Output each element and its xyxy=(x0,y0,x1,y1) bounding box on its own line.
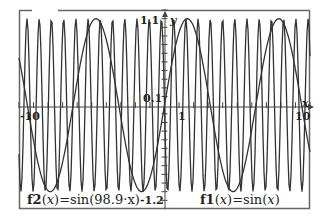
f2-inner: 98.9·x xyxy=(94,192,134,207)
f2-arg: x xyxy=(47,192,54,207)
f1-label[interactable]: f1(x)=sin(x) xyxy=(200,193,280,206)
x-scale-label: 1 xyxy=(178,111,186,122)
y-max-label: 1.1 xyxy=(140,15,159,26)
f1-arg: x xyxy=(220,192,227,207)
f2-rhs: =sin xyxy=(59,192,89,207)
f1-inner: x xyxy=(267,192,274,207)
x-min-label: -10 xyxy=(20,111,40,122)
graph-canvas[interactable] xyxy=(0,0,328,222)
y-axis-arrow xyxy=(162,11,168,17)
x-axis-name: x xyxy=(302,98,309,109)
y-min-label: -1.2 xyxy=(140,195,164,206)
y-axis-name: y xyxy=(170,15,176,26)
f1-name: f1 xyxy=(200,192,215,207)
f2-name: f2 xyxy=(27,192,42,207)
x-max-label: 10 xyxy=(295,111,310,122)
f2-label[interactable]: f2(x)=sin(98.9·x) xyxy=(27,193,140,206)
y-scale-label: 0.1 xyxy=(143,93,162,104)
f1-rhs: =sin xyxy=(232,192,262,207)
